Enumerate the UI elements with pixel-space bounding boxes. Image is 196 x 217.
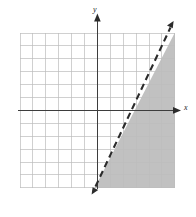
y-axis-arrow-icon <box>94 14 101 22</box>
x-axis-arrow-icon <box>173 107 181 114</box>
y-axis-label: y <box>93 6 97 14</box>
coordinate-plane-svg <box>0 0 196 217</box>
line-arrow-up-icon <box>167 21 174 28</box>
y-axis <box>94 14 101 190</box>
graph-figure: y x <box>0 0 196 217</box>
x-axis-label: x <box>184 104 188 112</box>
